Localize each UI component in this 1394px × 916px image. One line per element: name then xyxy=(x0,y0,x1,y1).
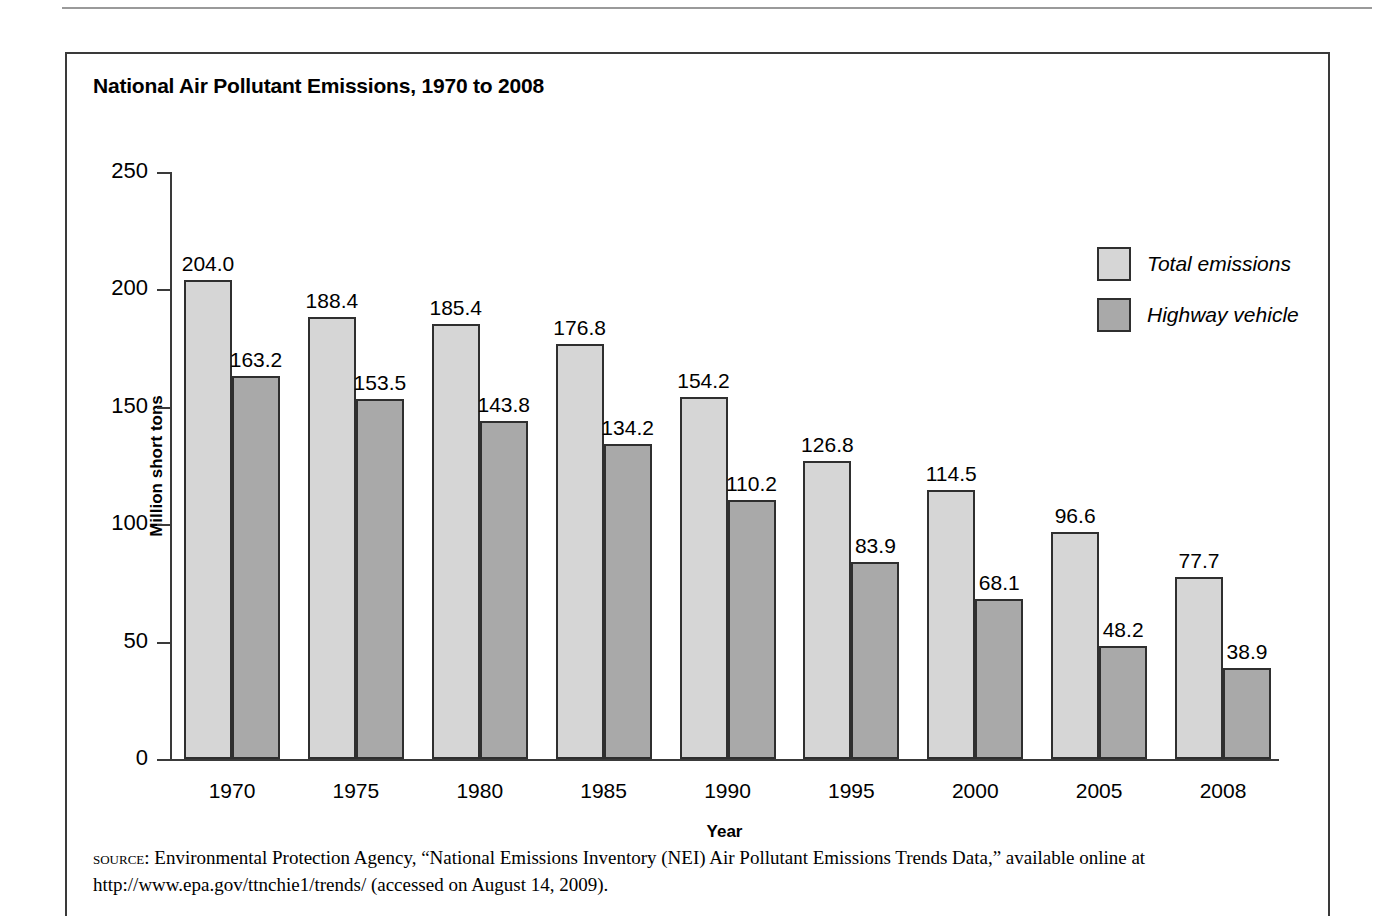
bar-value-label: 77.7 xyxy=(1179,550,1220,572)
chart-legend: Total emissionsHighway vehicle xyxy=(1097,247,1299,349)
bar-value-label: 185.4 xyxy=(429,297,482,319)
y-axis-tick-label: 50 xyxy=(124,629,148,653)
bar-value-label: 153.5 xyxy=(354,372,407,394)
y-axis-tick: 100 xyxy=(157,524,170,526)
bar-highway-vehicle[interactable]: 153.5 xyxy=(356,399,404,759)
bar-highway-vehicle[interactable]: 83.9 xyxy=(851,562,899,759)
bar-value-label: 204.0 xyxy=(182,253,235,275)
bar-value-label: 188.4 xyxy=(306,290,359,312)
source-note: SOURCE: Environmental Protection Agency,… xyxy=(93,844,1298,898)
y-axis-line xyxy=(170,172,172,759)
legend-item[interactable]: Highway vehicle xyxy=(1097,298,1299,332)
bar-value-label: 154.2 xyxy=(677,370,730,392)
x-axis-tick-label: 1995 xyxy=(828,765,875,803)
bar-group: 185.4143.81980 xyxy=(432,172,528,759)
bar-total-emissions[interactable]: 114.5 xyxy=(927,490,975,759)
bar-value-label: 126.8 xyxy=(801,434,854,456)
x-axis-tick-label: 1970 xyxy=(209,765,256,803)
bar-total-emissions[interactable]: 96.6 xyxy=(1051,532,1099,759)
y-axis-title: Million short tons xyxy=(147,395,167,537)
bar-total-emissions[interactable]: 176.8 xyxy=(556,344,604,759)
bar-group: 114.568.12000 xyxy=(927,172,1023,759)
bar-total-emissions[interactable]: 204.0 xyxy=(184,280,232,759)
y-axis-tick-label: 250 xyxy=(111,159,148,183)
x-axis-title: Year xyxy=(170,822,1279,842)
legend-swatch xyxy=(1097,298,1131,332)
legend-label: Highway vehicle xyxy=(1147,303,1299,327)
y-axis-tick: 150 xyxy=(157,407,170,409)
figure-title: National Air Pollutant Emissions, 1970 t… xyxy=(93,74,544,98)
bar-group: 126.883.91995 xyxy=(803,172,899,759)
bar-total-emissions[interactable]: 77.7 xyxy=(1175,577,1223,759)
bar-highway-vehicle[interactable]: 134.2 xyxy=(604,444,652,759)
bar-total-emissions[interactable]: 126.8 xyxy=(803,461,851,759)
x-axis-tick-label: 1985 xyxy=(580,765,627,803)
bar-value-label: 143.8 xyxy=(477,394,530,416)
figure-container: National Air Pollutant Emissions, 1970 t… xyxy=(65,52,1330,916)
x-axis-tick-label: 1990 xyxy=(704,765,751,803)
y-axis-tick: 200 xyxy=(157,289,170,291)
bar-value-label: 96.6 xyxy=(1055,505,1096,527)
legend-label: Total emissions xyxy=(1147,252,1291,276)
bar-group: 204.0163.21970 xyxy=(184,172,280,759)
y-axis-tick: 250 xyxy=(157,172,170,174)
bar-value-label: 110.2 xyxy=(726,473,777,495)
bar-total-emissions[interactable]: 154.2 xyxy=(680,397,728,759)
y-axis-tick-label: 0 xyxy=(136,746,148,770)
y-axis-tick-label: 150 xyxy=(111,394,148,418)
bar-value-label: 176.8 xyxy=(553,317,606,339)
bar-value-label: 38.9 xyxy=(1227,641,1268,663)
source-text: Environmental Protection Agency, “Nation… xyxy=(93,847,1145,895)
bar-highway-vehicle[interactable]: 163.2 xyxy=(232,376,280,759)
bar-total-emissions[interactable]: 188.4 xyxy=(308,317,356,759)
bar-value-label: 163.2 xyxy=(230,349,283,371)
y-axis-tick: 50 xyxy=(157,642,170,644)
bar-value-label: 83.9 xyxy=(855,535,896,557)
bar-highway-vehicle[interactable]: 48.2 xyxy=(1099,646,1147,759)
bar-highway-vehicle[interactable]: 143.8 xyxy=(480,421,528,759)
x-axis-tick-label: 1975 xyxy=(333,765,380,803)
bar-value-label: 68.1 xyxy=(979,572,1020,594)
bar-highway-vehicle[interactable]: 68.1 xyxy=(975,599,1023,759)
bar-highway-vehicle[interactable]: 38.9 xyxy=(1223,668,1271,759)
x-axis-tick-label: 2000 xyxy=(952,765,999,803)
source-label: SOURCE: xyxy=(93,847,150,868)
x-axis-tick-label: 2005 xyxy=(1076,765,1123,803)
bar-value-label: 114.5 xyxy=(926,463,977,485)
y-axis-tick-label: 200 xyxy=(111,276,148,300)
bar-total-emissions[interactable]: 185.4 xyxy=(432,324,480,759)
x-axis-tick-label: 2008 xyxy=(1200,765,1247,803)
bar-value-label: 48.2 xyxy=(1103,619,1144,641)
legend-swatch xyxy=(1097,247,1131,281)
bar-group: 176.8134.21985 xyxy=(556,172,652,759)
y-axis-tick: 0 xyxy=(157,759,170,761)
page-top-rule xyxy=(62,7,1372,9)
y-axis-tick-label: 100 xyxy=(111,511,148,535)
bar-highway-vehicle[interactable]: 110.2 xyxy=(728,500,776,759)
legend-item[interactable]: Total emissions xyxy=(1097,247,1299,281)
x-axis-line xyxy=(170,759,1279,761)
x-axis-tick-label: 1980 xyxy=(456,765,503,803)
bar-group: 188.4153.51975 xyxy=(308,172,404,759)
bar-value-label: 134.2 xyxy=(601,417,654,439)
bar-group: 154.2110.21990 xyxy=(680,172,776,759)
